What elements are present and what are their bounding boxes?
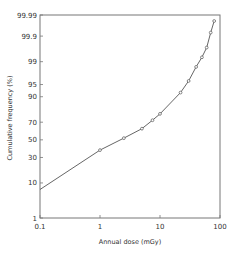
data-point-marker (159, 112, 162, 115)
data-point-marker (205, 46, 208, 49)
x-tick-label: 100 (213, 223, 226, 231)
y-tick-label: 99.9 (21, 33, 37, 41)
data-point-marker (187, 80, 190, 83)
data-point-marker (209, 31, 212, 34)
data-point-marker (195, 66, 198, 69)
y-tick-label: 50 (28, 136, 37, 144)
x-axis: 0.1110100 (34, 215, 226, 231)
data-point-marker (151, 119, 154, 122)
y-axis-label: Cumulative frequency (%) (6, 75, 14, 160)
y-tick-label: 70 (28, 119, 37, 127)
data-point-marker (201, 56, 204, 59)
x-tick-label: 1 (98, 223, 102, 231)
x-axis-label: Annual dose (mGy) (99, 238, 162, 246)
data-point-marker (179, 91, 182, 94)
y-axis: 11030507090959999.999.99 (17, 12, 43, 223)
y-tick-label: 90 (28, 93, 37, 101)
data-line (40, 21, 214, 190)
data-point-marker (213, 20, 216, 23)
x-tick-label: 10 (156, 223, 165, 231)
data-point-marker (122, 137, 125, 140)
y-tick-label: 1 (33, 215, 37, 223)
data-point-marker (141, 127, 144, 130)
x-tick-label: 0.1 (34, 223, 45, 231)
data-points (99, 20, 216, 152)
cumulative-frequency-chart: 11030507090959999.999.99 0.1110100 Cumul… (0, 0, 237, 256)
y-tick-label: 10 (28, 179, 37, 187)
plot-frame (40, 15, 220, 218)
y-tick-label: 99.99 (17, 12, 37, 20)
y-tick-label: 30 (28, 154, 37, 162)
data-point-marker (99, 149, 102, 152)
y-tick-label: 99 (28, 58, 37, 66)
y-tick-label: 95 (28, 81, 37, 89)
